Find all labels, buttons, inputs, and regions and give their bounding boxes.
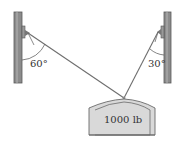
left-pole — [14, 12, 22, 83]
right-angle-label: 30° — [148, 58, 166, 69]
weight-label: 1000 lb — [104, 114, 142, 125]
right-pole — [164, 12, 171, 83]
left-angle-label: 60° — [30, 58, 48, 69]
right-bracket-icon — [157, 26, 164, 38]
right-angle-arc — [150, 49, 164, 55]
cable-diagram: 60° 30° 1000 lb — [0, 0, 179, 143]
left-bracket-icon — [22, 26, 30, 38]
